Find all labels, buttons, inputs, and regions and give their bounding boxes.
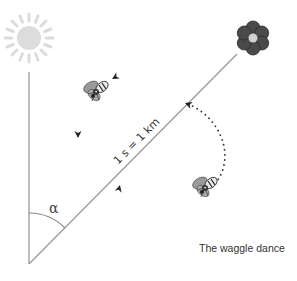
- angle-arc: [29, 213, 65, 228]
- figure-caption: The waggle dance: [199, 242, 285, 254]
- waggle-dance-diagram: α 1 s = 1 km The waggle dance: [0, 0, 297, 281]
- bee-icon: [82, 79, 111, 103]
- arrow-icon-up-run: [115, 184, 124, 193]
- arrow-icon-return: [184, 100, 193, 109]
- sun-icon: [5, 14, 53, 62]
- arrow-icon-bee1: [110, 72, 120, 82]
- distance-label: 1 s = 1 km: [111, 115, 162, 167]
- bee-icon: [191, 175, 220, 199]
- arrow-icon-down: [75, 131, 82, 138]
- flower-icon: [237, 21, 268, 55]
- angle-label: α: [49, 200, 59, 216]
- waggle-run-line: [29, 54, 237, 264]
- return-path-dotted: [188, 104, 225, 188]
